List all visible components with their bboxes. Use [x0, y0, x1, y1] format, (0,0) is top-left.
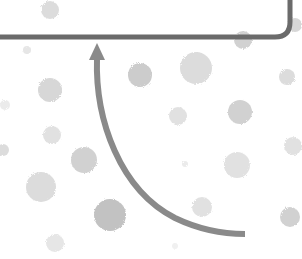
background-dot	[94, 199, 126, 231]
background-dot	[128, 63, 152, 87]
background-dot	[71, 147, 97, 173]
background-dot	[279, 69, 295, 85]
background-dot	[26, 172, 56, 202]
background-dot	[234, 31, 252, 49]
diagram-canvas	[0, 0, 302, 259]
background-dot	[224, 152, 250, 178]
background-dot	[0, 100, 10, 110]
background-dot	[180, 52, 212, 84]
background-dot	[280, 207, 300, 227]
background-dot	[192, 197, 212, 217]
background-dot	[182, 161, 188, 167]
background-dot	[38, 78, 62, 102]
background-dot	[43, 126, 61, 144]
background-dot	[23, 46, 31, 54]
background-dot	[41, 1, 59, 19]
diagram-svg	[0, 0, 302, 259]
background-dot	[0, 144, 9, 156]
background-dot	[169, 107, 187, 125]
arrow-head-icon	[89, 43, 105, 60]
background-dot	[284, 137, 302, 155]
background-dot	[172, 243, 178, 249]
background-dot	[228, 100, 252, 124]
background-dot	[46, 234, 64, 252]
